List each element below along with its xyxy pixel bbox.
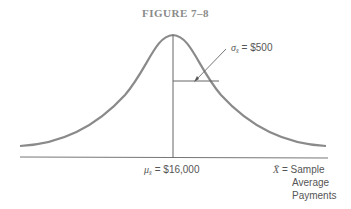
mean-label: μx̄= $16,000 [143,164,200,176]
x-axis-symbol: X̄ [272,164,280,175]
x-axis-label-line-3: Payments [292,190,336,201]
sigma-label: σx̄= $500 [231,42,273,54]
x-axis-label-line-2: Average [292,177,330,188]
x-axis [20,157,328,158]
normal-distribution-diagram: σx̄= $500 μx̄= $16,000 X̄ = Sample Avera… [0,0,351,209]
x-axis-label-line-1: = Sample [282,164,325,175]
